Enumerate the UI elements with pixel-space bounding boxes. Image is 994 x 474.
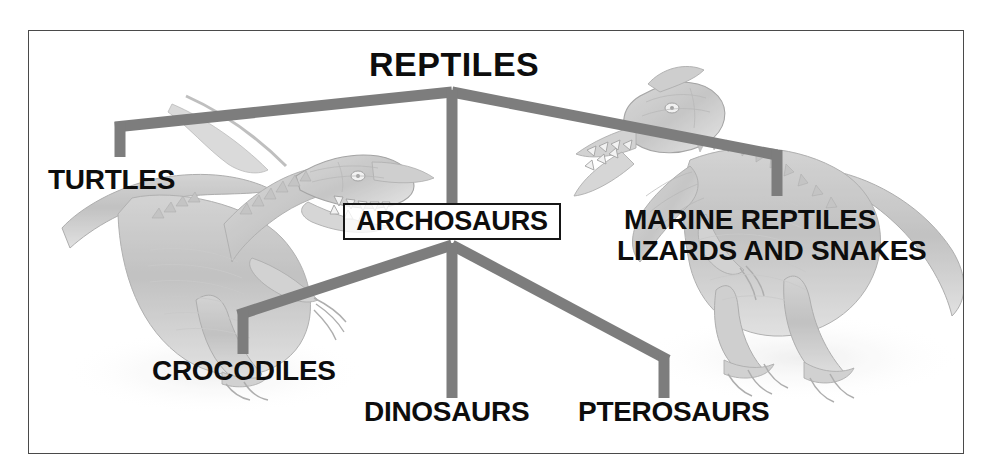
node-label-reptiles: REPTILES: [369, 47, 539, 81]
node-label-archosaurs: ARCHOSAURS: [345, 205, 559, 238]
node-label-lizards-and-snakes: LIZARDS AND SNAKES: [617, 237, 927, 265]
node-box-archosaurs: ARCHOSAURS: [343, 203, 561, 240]
node-label-turtles: TURTLES: [48, 166, 175, 194]
node-label-pterosaurs: PTEROSAURS: [578, 398, 769, 426]
node-label-crocodiles: CROCODILES: [152, 357, 336, 385]
node-label-dinosaurs: DINOSAURS: [364, 398, 529, 426]
node-label-marine-reptiles: MARINE REPTILES: [624, 206, 876, 234]
cladogram-diagram: REPTILES TURTLES ARCHOSAURS MARINE REPTI…: [0, 0, 994, 474]
